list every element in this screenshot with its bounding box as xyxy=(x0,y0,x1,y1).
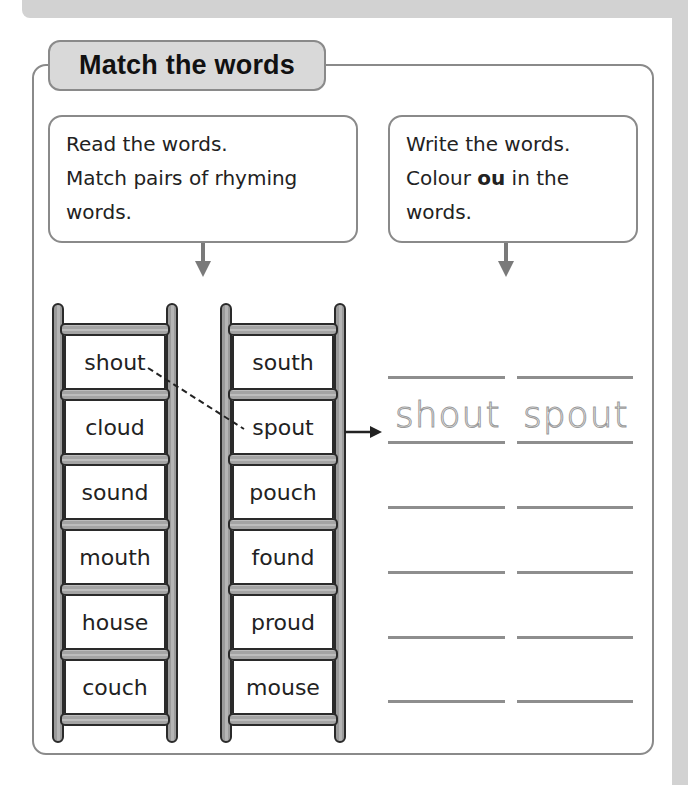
match-overlay xyxy=(0,0,688,785)
writing-line[interactable] xyxy=(388,441,505,444)
writing-line[interactable] xyxy=(388,571,505,574)
right-arrow-icon xyxy=(345,426,382,438)
writing-line[interactable] xyxy=(517,506,633,509)
writing-line[interactable] xyxy=(388,506,505,509)
writing-line[interactable] xyxy=(388,700,505,703)
trace-word-spout: spout xyxy=(523,394,629,435)
writing-line[interactable] xyxy=(517,636,633,639)
writing-line[interactable] xyxy=(517,376,633,379)
trace-word-shout: shout xyxy=(395,394,501,435)
writing-line[interactable] xyxy=(517,700,633,703)
writing-line[interactable] xyxy=(388,636,505,639)
match-dashed-line xyxy=(148,368,244,429)
writing-line[interactable] xyxy=(388,376,505,379)
writing-line[interactable] xyxy=(517,571,633,574)
writing-line[interactable] xyxy=(517,441,633,444)
